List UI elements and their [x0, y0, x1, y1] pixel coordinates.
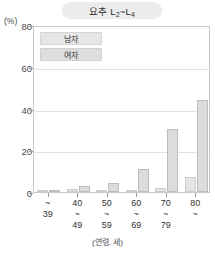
- x-tick-label-line: ~: [178, 209, 212, 220]
- chart-title-text: 요추 L: [89, 6, 116, 17]
- x-tick-mark: [107, 193, 108, 197]
- chart-title-sub2: 4: [131, 11, 135, 18]
- bar[interactable]: [197, 100, 208, 192]
- bar[interactable]: [138, 169, 149, 192]
- bar-group: [182, 27, 212, 192]
- x-tick-mark: [77, 193, 78, 197]
- legend-item-female[interactable]: 여자: [40, 48, 102, 61]
- x-tick-mark: [195, 193, 196, 197]
- x-tick-label-line: 79: [149, 220, 183, 231]
- bar-group: [152, 27, 182, 192]
- chart-title-sub1: 2: [116, 11, 120, 18]
- bar[interactable]: [67, 189, 78, 192]
- x-tick-mark: [48, 193, 49, 197]
- bar[interactable]: [185, 177, 196, 192]
- bar[interactable]: [167, 129, 178, 192]
- y-tick-mark-0: [29, 193, 33, 194]
- x-axis-labels: ~3940~4950~5960~6970~7980~: [33, 198, 210, 234]
- x-tick-label: 80~: [178, 198, 212, 220]
- x-tick-mark: [136, 193, 137, 197]
- bar[interactable]: [49, 190, 60, 192]
- bar[interactable]: [108, 183, 119, 192]
- bar-group: [123, 27, 153, 192]
- bar[interactable]: [126, 190, 137, 192]
- chart-title: 요추 L2~L4: [62, 2, 162, 19]
- legend-label-female: 여자: [64, 49, 78, 60]
- x-axis-title: (연령, 세): [0, 236, 215, 247]
- x-tick-label-line: 80: [178, 198, 212, 209]
- chart-title-mid: ~L: [120, 6, 131, 17]
- legend-label-male: 남자: [64, 33, 78, 44]
- chart-legend: 남자 여자: [40, 32, 102, 61]
- bar[interactable]: [37, 190, 48, 192]
- bar[interactable]: [96, 190, 107, 193]
- bar[interactable]: [79, 186, 90, 192]
- chart-figure: 요추 L2~L4 (%) 80 60 40 20 0 남자 여자 ~3940~4…: [0, 0, 215, 254]
- legend-item-male[interactable]: 남자: [40, 32, 102, 45]
- bar[interactable]: [155, 188, 166, 192]
- x-tick-mark: [166, 193, 167, 197]
